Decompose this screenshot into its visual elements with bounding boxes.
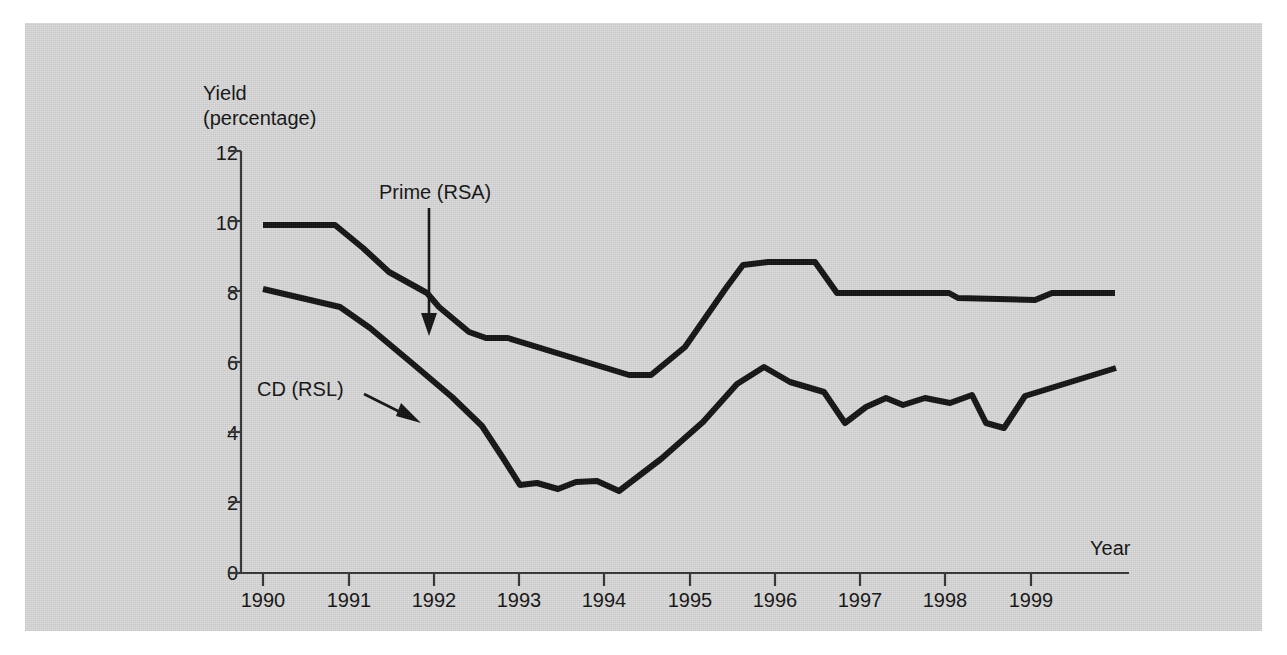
chart-plot-area: Yield (percentage) Year 12 10 8 6 4 2 0 …	[25, 23, 1262, 631]
series-line-prime	[263, 225, 1115, 375]
prime-annotation-arrow	[421, 208, 437, 336]
y-tick-marks	[228, 151, 241, 573]
x-tick-marks	[263, 573, 1031, 586]
cd-annotation-arrow	[364, 394, 421, 423]
chart-svg	[25, 23, 1262, 631]
axis-lines	[241, 151, 1129, 574]
series-line-cd	[263, 289, 1116, 491]
chart-figure: Yield (percentage) Year 12 10 8 6 4 2 0 …	[25, 23, 1262, 631]
